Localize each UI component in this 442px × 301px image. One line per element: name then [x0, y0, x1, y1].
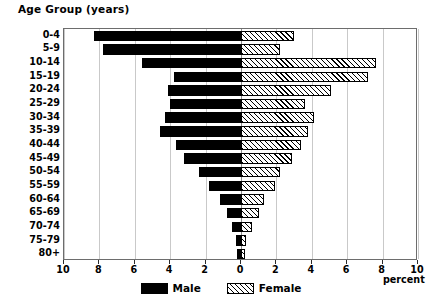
bar-female-30-34 — [241, 112, 314, 122]
bar-female-50-54 — [241, 167, 280, 177]
bar-row — [64, 43, 416, 57]
bar-female-10-14 — [241, 58, 376, 68]
bar-male-20-24 — [168, 85, 241, 95]
y-axis: 80+75-7970-7465-6960-6455-5950-5445-4940… — [0, 28, 60, 260]
bar-male-35-39 — [160, 126, 241, 136]
y-tick-label-25-29: 25-29 — [2, 98, 60, 108]
bar-male-50-54 — [199, 167, 241, 177]
x-tick-label-8: 6 — [343, 265, 350, 275]
y-tick-label-75-79: 75-79 — [2, 235, 60, 245]
bar-row — [64, 97, 416, 111]
bar-female-15-19 — [241, 72, 368, 82]
chart-legend: MaleFemale — [0, 282, 442, 294]
bar-male-70-74 — [232, 222, 241, 232]
legend-label-female: Female — [259, 282, 302, 294]
bar-male-45-49 — [184, 153, 241, 163]
bar-row — [64, 165, 416, 179]
x-tick-label-1: 8 — [95, 265, 102, 275]
y-tick-label-50-54: 50-54 — [2, 166, 60, 176]
bar-row — [64, 84, 416, 98]
legend-swatch-female — [227, 283, 254, 294]
bar-row — [64, 125, 416, 139]
bar-row — [64, 220, 416, 234]
y-tick-label-15-19: 15-19 — [2, 71, 60, 81]
bar-row — [64, 70, 416, 84]
plot-area — [63, 28, 417, 260]
y-tick-label-60-64: 60-64 — [2, 194, 60, 204]
bar-row — [64, 234, 416, 248]
x-tick-label-6: 2 — [272, 265, 279, 275]
legend-label-male: Male — [173, 282, 201, 294]
legend-item-female: Female — [227, 282, 302, 294]
bar-row — [64, 179, 416, 193]
bar-female-55-59 — [241, 181, 275, 191]
bar-row — [64, 138, 416, 152]
bar-male-10-14 — [142, 58, 241, 68]
x-tick-label-2: 6 — [130, 265, 137, 275]
bar-male-30-34 — [165, 112, 241, 122]
y-tick-label-70-74: 70-74 — [2, 221, 60, 231]
y-tick-label-20-24: 20-24 — [2, 84, 60, 94]
y-tick-label-45-49: 45-49 — [2, 153, 60, 163]
y-tick-label-5-9: 5-9 — [2, 43, 60, 53]
bar-male-55-59 — [209, 181, 241, 191]
y-tick-label-30-34: 30-34 — [2, 112, 60, 122]
y-tick-label-40-44: 40-44 — [2, 139, 60, 149]
y-tick-label-10-14: 10-14 — [2, 57, 60, 67]
bar-female-35-39 — [241, 126, 308, 136]
x-tick-label-7: 4 — [307, 265, 314, 275]
x-tick-label-4: 2 — [201, 265, 208, 275]
y-tick-label-0-4: 0-4 — [2, 30, 60, 40]
legend-swatch-male — [141, 283, 168, 294]
bar-female-60-64 — [241, 194, 264, 204]
bar-row — [64, 152, 416, 166]
bar-female-5-9 — [241, 44, 280, 54]
bar-female-45-49 — [241, 153, 292, 163]
x-tick-label-5: 0 — [237, 265, 244, 275]
bar-female-20-24 — [241, 85, 331, 95]
bar-female-80+ — [241, 249, 245, 259]
bar-female-65-69 — [241, 208, 259, 218]
bar-female-70-74 — [241, 222, 252, 232]
gridline-10 — [418, 29, 419, 259]
x-tick-label-0: 10 — [56, 265, 69, 275]
bar-row — [64, 247, 416, 261]
legend-item-male: Male — [141, 282, 201, 294]
x-axis: 1086420246810 — [63, 260, 417, 280]
bar-male-25-29 — [170, 99, 241, 109]
x-tick-label-3: 4 — [166, 265, 173, 275]
bar-row — [64, 56, 416, 70]
bar-male-60-64 — [220, 194, 241, 204]
bar-row — [64, 111, 416, 125]
y-tick-label-35-39: 35-39 — [2, 125, 60, 135]
bar-male-65-69 — [227, 208, 241, 218]
bar-male-0-4 — [94, 31, 241, 41]
bar-male-15-19 — [174, 72, 241, 82]
y-tick-label-80+: 80+ — [2, 248, 60, 258]
bar-male-5-9 — [103, 44, 241, 54]
bar-female-0-4 — [241, 31, 294, 41]
bar-female-75-79 — [241, 235, 246, 245]
bar-row — [64, 193, 416, 207]
bar-female-25-29 — [241, 99, 305, 109]
bar-female-40-44 — [241, 140, 301, 150]
bar-row — [64, 29, 416, 43]
y-tick-label-55-59: 55-59 — [2, 180, 60, 190]
chart-title: Age Group (years) — [18, 3, 130, 15]
y-tick-label-65-69: 65-69 — [2, 207, 60, 217]
bar-male-40-44 — [176, 140, 241, 150]
bar-row — [64, 206, 416, 220]
